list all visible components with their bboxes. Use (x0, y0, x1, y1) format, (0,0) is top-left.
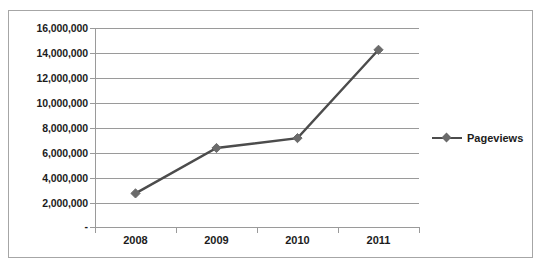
y-axis-label-text: 16,000,000 (2, 23, 88, 34)
y-axis-label-text: 14,000,000 (2, 48, 88, 59)
x-tick (257, 228, 258, 233)
gridline-10000000 (95, 103, 419, 104)
y-axis-label: 10,000,000 (0, 98, 88, 109)
y-axis-label: 14,000,000 (0, 48, 88, 59)
x-tick (95, 228, 96, 233)
y-tick (90, 103, 95, 104)
x-tick (338, 228, 339, 233)
y-axis-label-text: 6,000,000 (2, 148, 88, 159)
y-axis-label-text: 8,000,000 (2, 123, 88, 134)
y-axis-label-text: - (2, 221, 88, 232)
gridline-4000000 (95, 178, 419, 179)
y-axis-label: 2,000,000 (0, 198, 88, 209)
x-tick (419, 228, 420, 233)
y-tick (90, 153, 95, 154)
y-axis-label-text: 10,000,000 (2, 98, 88, 109)
gridline-16000000 (95, 28, 419, 29)
y-axis-label: 8,000,000 (0, 123, 88, 134)
y-tick (90, 128, 95, 129)
diamond-marker-icon (442, 133, 452, 143)
x-axis-label-2008: 2008 (95, 234, 176, 247)
x-axis-label-2011: 2011 (338, 234, 419, 247)
gridline-8000000 (95, 128, 419, 129)
y-tick (90, 178, 95, 179)
gridline-12000000 (95, 78, 419, 79)
y-axis-label-zero: - (0, 221, 88, 232)
y-axis-label-text: 4,000,000 (2, 173, 88, 184)
y-tick (90, 28, 95, 29)
legend: Pageviews (432, 129, 523, 147)
legend-label: Pageviews (462, 132, 523, 144)
y-tick (90, 53, 95, 54)
gridline-14000000 (95, 53, 419, 54)
x-tick (176, 228, 177, 233)
y-axis-label: 4,000,000 (0, 173, 88, 184)
y-axis-label: 16,000,000 (0, 23, 88, 34)
y-axis-label-text: 12,000,000 (2, 73, 88, 84)
y-axis-label: 6,000,000 (0, 148, 88, 159)
y-tick (90, 203, 95, 204)
gridline-6000000 (95, 153, 419, 154)
x-axis-label-2009: 2009 (176, 234, 257, 247)
x-axis-label-2010: 2010 (257, 234, 338, 247)
y-axis-label-text: 2,000,000 (2, 198, 88, 209)
y-axis-label: 12,000,000 (0, 73, 88, 84)
y-tick (90, 78, 95, 79)
legend-marker-icon (432, 132, 462, 144)
gridline-2000000 (95, 203, 419, 204)
value-axis-line (95, 28, 96, 228)
